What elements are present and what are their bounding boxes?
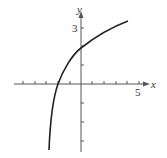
function-curve (49, 21, 128, 150)
y-tick-label-3: 3 (72, 22, 78, 34)
x-axis-label: x (150, 78, 156, 90)
y-axis-label: y (76, 3, 82, 15)
x-axis-arrow-icon (143, 82, 150, 87)
x-tick-label-5: 5 (135, 86, 141, 98)
graph: x y 5 3 (0, 0, 167, 158)
